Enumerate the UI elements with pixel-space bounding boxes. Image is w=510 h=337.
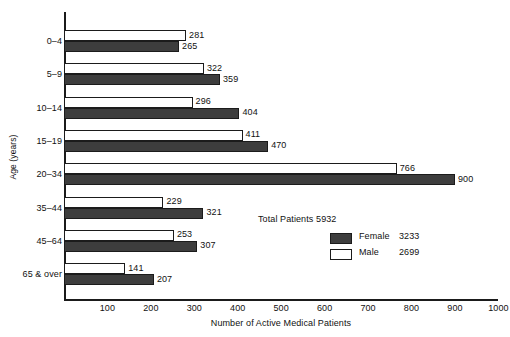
x-tick-100: 100: [87, 303, 127, 313]
bar-male-7: [64, 263, 125, 274]
category-label-6: 45–64: [4, 236, 62, 246]
bar-value-female-4: 900: [458, 174, 473, 185]
legend-label-male: Male: [359, 247, 379, 257]
x-tick-300: 300: [174, 303, 214, 313]
legend-swatch-female-icon: [330, 233, 352, 244]
bar-female-4: [64, 174, 455, 185]
bar-male-0: [64, 30, 186, 41]
x-tick-600: 600: [305, 303, 345, 313]
x-axis-line: [64, 299, 498, 301]
bar-value-female-6: 307: [200, 240, 215, 251]
legend-swatch-male-icon: [330, 249, 352, 260]
bar-value-male-2: 296: [196, 96, 211, 107]
legend-value-male: 2699: [399, 247, 419, 257]
x-tick-400: 400: [218, 303, 258, 313]
legend-item-female: Female 3233: [258, 230, 428, 246]
chart-legend: Total Patients 5932 Female 3233 Male 269…: [258, 214, 428, 262]
bar-value-female-1: 359: [223, 74, 238, 85]
bar-value-male-7: 141: [128, 263, 143, 274]
bar-female-0: [64, 41, 179, 52]
x-tick-500: 500: [261, 303, 301, 313]
bar-male-3: [64, 130, 243, 141]
bar-value-male-4: 766: [400, 163, 415, 174]
bar-value-male-1: 322: [207, 63, 222, 74]
category-label-2: 10–14: [4, 103, 62, 113]
x-tick-900: 900: [435, 303, 475, 313]
bar-value-female-2: 404: [242, 107, 257, 118]
bar-value-female-7: 207: [157, 274, 172, 285]
bar-male-5: [64, 197, 163, 208]
x-tick-200: 200: [131, 303, 171, 313]
category-label-5: 35–44: [4, 203, 62, 213]
category-label-group: 0–45–910–1415–1920–3435–4445–6465 & over: [0, 0, 62, 337]
bar-value-male-0: 281: [189, 30, 204, 41]
x-axis-title: Number of Active Medical Patients: [64, 318, 498, 328]
legend-item-male: Male 2699: [258, 246, 428, 262]
category-label-3: 15–19: [4, 136, 62, 146]
bar-value-male-6: 253: [177, 229, 192, 240]
legend-label-female: Female: [359, 231, 390, 241]
bar-male-2: [64, 97, 193, 108]
bar-male-4: [64, 163, 397, 174]
x-tick-700: 700: [348, 303, 388, 313]
x-tick-800: 800: [392, 303, 432, 313]
bar-female-1: [64, 74, 220, 85]
bar-female-5: [64, 208, 203, 219]
category-label-7: 65 & over: [4, 269, 62, 279]
bar-value-male-5: 229: [166, 196, 181, 207]
bar-value-female-5: 321: [206, 207, 221, 218]
category-label-0: 0–4: [4, 36, 62, 46]
y-axis-line: [64, 12, 66, 300]
legend-value-female: 3233: [399, 231, 419, 241]
bar-female-3: [64, 141, 268, 152]
legend-total-row: Total Patients 5932: [258, 214, 428, 230]
legend-total-label: Total Patients 5932: [258, 214, 428, 224]
bar-male-6: [64, 230, 174, 241]
x-tick-1000: 1000: [478, 303, 510, 313]
category-label-1: 5–9: [4, 69, 62, 79]
bar-female-2: [64, 108, 239, 119]
category-label-4: 20–34: [4, 169, 62, 179]
bar-value-female-3: 470: [271, 140, 286, 151]
bar-value-male-3: 411: [246, 129, 261, 140]
bar-female-6: [64, 241, 197, 252]
bar-chart: Age (years) 0–45–910–1415–1920–3435–4445…: [0, 0, 510, 337]
bar-female-7: [64, 274, 154, 285]
bar-male-1: [64, 63, 204, 74]
bar-value-female-0: 265: [182, 41, 197, 52]
